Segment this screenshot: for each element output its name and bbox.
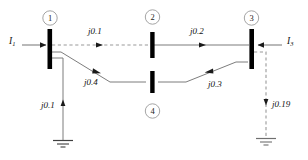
- shunt-bus-1-arrow: [61, 100, 66, 107]
- circuit-diagram: 1 2 3 4 j0.1 j0.2 j0.4 j0.3 j0.1 j0.19 I…: [0, 0, 308, 160]
- bus-3-number: 3: [244, 11, 259, 26]
- branch-4-3-arrow: [205, 69, 214, 74]
- bus-bar-1: [48, 29, 53, 69]
- branch-1-4-label: j0.4: [84, 78, 98, 87]
- branch-4-3-line: [158, 62, 248, 82]
- branch-2-3-line: [154, 42, 249, 47]
- current-source-3-label: I3: [287, 37, 293, 47]
- branch-4-3-label: j0.3: [208, 80, 222, 89]
- current-source-1-index: 1: [12, 40, 15, 47]
- branch-1-2-arrow: [96, 42, 103, 47]
- bus-bar-4: [150, 71, 154, 93]
- branch-1-2-line: [52, 42, 150, 47]
- current-source-3-index: 3: [290, 40, 293, 47]
- shunt-bus-3-arrow: [264, 99, 269, 106]
- shunt-bus-1-line: [52, 58, 73, 147]
- shunt-bus-1-label: j0.1: [41, 101, 55, 110]
- bus-1-number: 1: [43, 11, 58, 26]
- ground-symbol-bus-1: [53, 141, 73, 148]
- branch-2-3-arrow: [199, 42, 206, 47]
- branch-1-2-label: j0.1: [88, 27, 102, 36]
- bus-2-number: 2: [145, 10, 160, 25]
- branch-1-4-line: [52, 52, 146, 82]
- current-source-1-label: I1: [9, 37, 15, 47]
- branch-1-4-arrow: [92, 68, 101, 73]
- shunt-bus-3-label: j0.19: [272, 100, 290, 109]
- bus-bar-3: [249, 29, 254, 69]
- ground-symbol-bus-3: [256, 139, 276, 146]
- bus-4-number: 4: [145, 104, 160, 119]
- bus-bar-2: [150, 32, 154, 58]
- branch-2-3-label: j0.2: [190, 27, 204, 36]
